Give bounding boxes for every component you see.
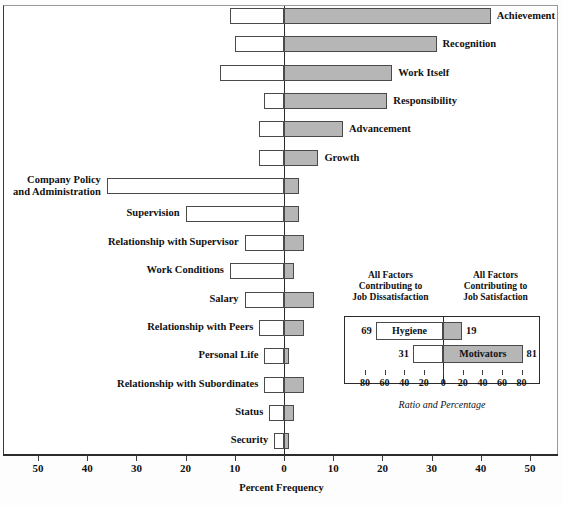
bar-row: Recognition xyxy=(0,36,563,52)
x-axis-tick-label: 10 xyxy=(318,462,348,474)
x-axis-tick-label: 40 xyxy=(72,462,102,474)
bar-row-label: Growth xyxy=(324,152,359,164)
x-axis-tick xyxy=(481,455,482,461)
x-axis-title: Percent Frequency xyxy=(0,482,563,493)
x-axis-tick xyxy=(432,455,433,461)
inset-axis-tick xyxy=(443,370,444,375)
bar-dissatisfaction xyxy=(230,8,284,24)
bar-dissatisfaction xyxy=(107,178,284,194)
bar-row: Security xyxy=(0,433,563,449)
bar-dissatisfaction xyxy=(220,65,284,81)
x-axis-tick-label: 40 xyxy=(466,462,496,474)
bar-dissatisfaction xyxy=(245,292,284,308)
bar-satisfaction xyxy=(284,292,314,308)
bar-row-label: Status xyxy=(0,406,263,418)
x-axis-tick xyxy=(235,455,236,461)
inset-value-satisfaction: 81 xyxy=(527,345,545,363)
bar-row-label: Relationship with Subordinates xyxy=(0,378,258,390)
bar-dissatisfaction xyxy=(259,320,284,336)
bar-satisfaction xyxy=(284,121,343,137)
bar-dissatisfaction xyxy=(259,150,284,166)
bar-satisfaction xyxy=(284,8,491,24)
bar-row: Advancement xyxy=(0,121,563,137)
bar-dissatisfaction xyxy=(264,93,284,109)
bar-dissatisfaction xyxy=(269,405,284,421)
x-axis-tick xyxy=(186,455,187,461)
inset-axis-tick-label: 0 xyxy=(433,377,453,388)
bar-row-label: Security xyxy=(0,434,268,446)
inset-axis-tick-label: 80 xyxy=(512,377,532,388)
x-axis-tick xyxy=(136,455,137,461)
bar-satisfaction xyxy=(284,377,304,393)
bar-row-label: Personal Life xyxy=(0,349,258,361)
bar-row-label: Work Conditions xyxy=(0,264,224,276)
bar-row: Supervision xyxy=(0,206,563,222)
inset-axis-tick-label: 20 xyxy=(453,377,473,388)
bar-dissatisfaction xyxy=(274,433,284,449)
inset-caption: Ratio and Percentage xyxy=(344,399,540,410)
bar-dissatisfaction xyxy=(264,348,284,364)
bar-satisfaction xyxy=(284,433,289,449)
x-axis-tick xyxy=(284,455,285,461)
inset-axis-tick-label: 20 xyxy=(414,377,434,388)
bar-row-label: Advancement xyxy=(349,123,411,135)
bar-dissatisfaction xyxy=(235,36,284,52)
bar-satisfaction xyxy=(284,405,294,421)
x-axis-tick-label: 20 xyxy=(171,462,201,474)
x-axis-tick xyxy=(333,455,334,461)
inset-axis-tick-label: 40 xyxy=(394,377,414,388)
inset-axis-tick-label: 60 xyxy=(375,377,395,388)
inset-heading-satisfaction: All Factors Contributing to Job Satisfac… xyxy=(443,270,548,303)
bar-satisfaction xyxy=(284,348,289,364)
chart-canvas: AchievementRecognitionWork ItselfRespons… xyxy=(0,0,563,505)
inset-bar-label: Hygiene xyxy=(376,322,443,340)
inset-axis-tick xyxy=(522,370,523,375)
bar-satisfaction xyxy=(284,235,304,251)
x-axis-tick xyxy=(87,455,88,461)
inset-value-satisfaction: 19 xyxy=(466,322,484,340)
bar-row-label: Relationship with Supervisor xyxy=(0,236,239,248)
inset-axis-tick xyxy=(404,370,405,375)
bar-row: Work Itself xyxy=(0,65,563,81)
bar-row-label: Salary xyxy=(0,293,239,305)
bar-row: Company Policy and Administration xyxy=(0,178,563,194)
bar-satisfaction xyxy=(284,150,318,166)
x-axis-tick xyxy=(530,455,531,461)
bar-row-label: Company Policy and Administration xyxy=(0,174,101,197)
bar-satisfaction xyxy=(284,65,392,81)
bar-row-label: Achievement xyxy=(497,10,555,22)
bar-satisfaction xyxy=(284,320,304,336)
inset-axis-tick-label: 80 xyxy=(355,377,375,388)
x-axis-tick xyxy=(38,455,39,461)
bar-row-label: Work Itself xyxy=(398,67,449,79)
inset-bar-satisfaction xyxy=(443,322,462,340)
bar-row-label: Supervision xyxy=(0,207,180,219)
x-axis-tick-label: 50 xyxy=(515,462,545,474)
inset-axis-tick xyxy=(482,370,483,375)
bar-row-label: Relationship with Peers xyxy=(0,321,253,333)
bar-dissatisfaction xyxy=(245,235,284,251)
bar-row: Relationship with Supervisor xyxy=(0,235,563,251)
x-axis-tick xyxy=(382,455,383,461)
inset-axis-tick xyxy=(502,370,503,375)
bar-row-label: Responsibility xyxy=(393,95,457,107)
x-axis-tick-label: 0 xyxy=(269,462,299,474)
diverging-bar-plot: AchievementRecognitionWork ItselfRespons… xyxy=(0,0,563,505)
bar-dissatisfaction xyxy=(259,121,284,137)
inset-axis-tick-label: 40 xyxy=(472,377,492,388)
bar-row: Achievement xyxy=(0,8,563,24)
x-axis-tick-label: 10 xyxy=(220,462,250,474)
bar-satisfaction xyxy=(284,178,299,194)
inset-axis-tick xyxy=(463,370,464,375)
bar-row: Responsibility xyxy=(0,93,563,109)
inset-heading-dissatisfaction: All Factors Contributing to Job Dissatis… xyxy=(338,270,443,303)
x-axis-tick-label: 20 xyxy=(367,462,397,474)
x-axis-tick-label: 50 xyxy=(23,462,53,474)
inset-axis-tick-label: 60 xyxy=(492,377,512,388)
bar-dissatisfaction xyxy=(264,377,284,393)
bar-dissatisfaction xyxy=(230,263,284,279)
bar-dissatisfaction xyxy=(186,206,284,222)
inset-value-dissatisfaction: 69 xyxy=(354,322,372,340)
bar-satisfaction xyxy=(284,93,387,109)
inset-axis-tick xyxy=(385,370,386,375)
